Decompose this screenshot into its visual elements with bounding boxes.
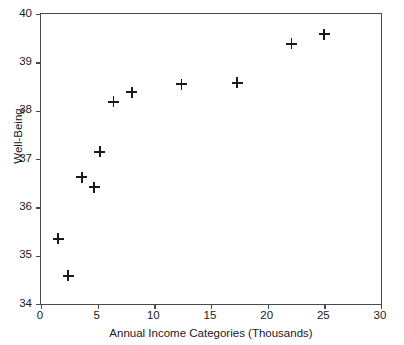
data-point xyxy=(176,79,187,90)
x-axis-tick-label: 15 xyxy=(190,309,230,322)
x-axis-tick xyxy=(324,304,325,309)
x-axis-tick xyxy=(268,304,269,309)
y-axis-tick xyxy=(36,207,41,208)
y-axis-tick xyxy=(36,304,41,305)
data-point xyxy=(76,172,87,183)
x-axis-tick xyxy=(381,304,382,309)
plot-data-area xyxy=(41,14,381,304)
x-axis-tick-label: 0 xyxy=(20,309,60,322)
y-axis-tick-label: 39 xyxy=(0,55,32,68)
data-point xyxy=(63,270,74,281)
x-axis-tick-label: 20 xyxy=(247,309,287,322)
x-axis-tick xyxy=(98,304,99,309)
y-axis-tick-label: 36 xyxy=(0,200,32,213)
x-axis-tick xyxy=(154,304,155,309)
x-axis-title: Annual Income Categories (Thousands) xyxy=(40,327,382,339)
x-axis-tick xyxy=(211,304,212,309)
y-axis-tick xyxy=(36,256,41,257)
x-axis-tick-label: 10 xyxy=(133,309,173,322)
y-axis-tick-label: 37 xyxy=(0,152,32,165)
data-point xyxy=(232,77,243,88)
data-point xyxy=(286,38,297,49)
x-axis-tick-label: 25 xyxy=(303,309,343,322)
x-axis-tick-label: 30 xyxy=(360,309,400,322)
y-axis-tick xyxy=(36,62,41,63)
y-axis-tick-label: 34 xyxy=(0,297,32,310)
data-point xyxy=(319,29,330,40)
y-axis-tick xyxy=(36,14,41,15)
x-axis-tick-label: 5 xyxy=(77,309,117,322)
y-axis-tick-label: 38 xyxy=(0,103,32,116)
x-axis-tick xyxy=(41,304,42,309)
data-point xyxy=(89,182,100,193)
data-point xyxy=(94,146,105,157)
y-axis-tick xyxy=(36,111,41,112)
scatter-plot-figure: Well-Being Annual Income Categories (Tho… xyxy=(0,0,404,345)
data-point xyxy=(126,87,137,98)
data-point xyxy=(108,96,119,107)
y-axis-title: Well-Being xyxy=(12,66,24,206)
y-axis-tick-label: 40 xyxy=(0,7,32,20)
plot-frame xyxy=(40,13,382,305)
data-point xyxy=(53,233,64,244)
y-axis-tick-label: 35 xyxy=(0,248,32,261)
y-axis-tick xyxy=(36,159,41,160)
